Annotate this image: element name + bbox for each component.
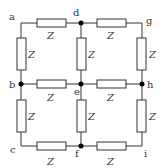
resistor-b-e: [37, 80, 66, 88]
impedance-label-b-c: Z: [27, 111, 36, 122]
node-label-b: b: [9, 79, 15, 90]
resistor-h-i: [137, 100, 146, 132]
junction-dot-f: [79, 144, 84, 149]
impedance-label-d-g: Z: [106, 30, 115, 41]
impedance-label-h-i: Z: [148, 111, 157, 122]
impedance-label-c-f: Z: [46, 156, 55, 167]
resistor-b-c: [17, 100, 26, 132]
impedance-label-f-i: Z: [106, 156, 115, 167]
node-label-i: i: [144, 148, 147, 159]
resistor-g-h: [137, 38, 146, 70]
node-label-h: h: [147, 79, 154, 90]
node-label-f: f: [75, 148, 80, 159]
resistor-e-f: [77, 100, 86, 132]
resistor-a-b: [17, 38, 26, 70]
node-label-e: e: [74, 86, 80, 97]
node-label-g: g: [146, 15, 153, 26]
resistor-d-g: [97, 19, 126, 27]
resistor-c-f: [37, 142, 66, 150]
impedance-label-d-e: Z: [87, 49, 96, 60]
node-label-a: a: [9, 11, 15, 22]
impedance-label-e-f: Z: [87, 111, 96, 122]
node-label-c: c: [10, 144, 16, 155]
impedance-label-a-d: Z: [46, 30, 55, 41]
impedance-label-a-b: Z: [27, 49, 36, 60]
resistor-a-d: [37, 19, 66, 27]
impedance-label-e-h: Z: [106, 92, 115, 103]
resistor-d-e: [77, 38, 86, 70]
junction-dot-d: [79, 21, 84, 26]
junction-dot-b: [19, 82, 24, 87]
node-label-d: d: [73, 7, 80, 18]
impedance-label-b-e: Z: [46, 92, 55, 103]
impedance-label-g-h: Z: [148, 49, 157, 60]
circuit-diagram: a d g b e h c f i Z Z Z Z Z Z Z Z Z Z Z …: [0, 0, 167, 168]
resistor-e-h: [97, 80, 126, 88]
resistor-f-i: [97, 142, 126, 150]
junction-dot-h: [140, 82, 145, 87]
